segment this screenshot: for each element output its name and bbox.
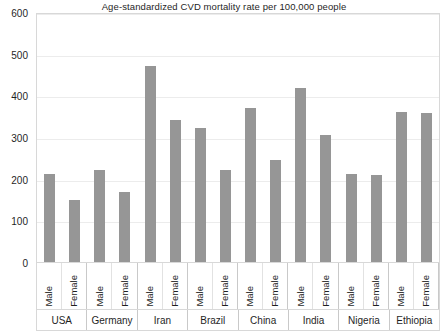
series-label-cell: Female (263, 263, 288, 309)
series-label: Male (245, 286, 255, 307)
bar-cell (112, 14, 137, 262)
bar[interactable] (119, 192, 130, 262)
series-label: Female (270, 275, 280, 307)
plot-area (36, 13, 440, 263)
category-label: Nigeria (339, 310, 389, 330)
bar-cell (313, 14, 338, 262)
category-label: Germany (87, 310, 137, 330)
series-label-cell: Male (87, 263, 112, 309)
bar[interactable] (69, 200, 80, 263)
bar[interactable] (44, 174, 55, 262)
series-label: Female (321, 275, 331, 307)
series-label-cell: Male (188, 263, 213, 309)
bar[interactable] (270, 160, 281, 262)
bar[interactable] (170, 120, 181, 262)
bar-cell (263, 14, 288, 262)
bar-cell (87, 14, 112, 262)
bar[interactable] (346, 174, 357, 262)
series-label-cell: Female (414, 263, 439, 309)
series-label-cell: Female (112, 263, 137, 309)
y-axis-tick-label: 100 (11, 216, 28, 227)
y-axis-tick-label: 300 (11, 133, 28, 144)
y-axis-tick-label: 200 (11, 174, 28, 185)
bar-cell (62, 14, 87, 262)
bar-cell (188, 14, 213, 262)
bar[interactable] (245, 108, 256, 262)
bar-cell (389, 14, 414, 262)
series-label: Male (145, 286, 155, 307)
series-label: Male (95, 286, 105, 307)
series-label: Male (44, 286, 54, 307)
series-label: Female (69, 275, 79, 307)
chart-title: Age-standardized CVD mortality rate per … (0, 1, 448, 12)
series-label-cell: Male (389, 263, 414, 309)
category-label-band: USAGermanyIranBrazilChinaIndiaNigeriaEth… (36, 310, 440, 331)
bar-cell (288, 14, 313, 262)
category-label: Ethiopia (390, 310, 439, 330)
category-label: Brazil (188, 310, 238, 330)
bar[interactable] (295, 88, 306, 262)
bar-cell (238, 14, 263, 262)
y-axis-tick-label: 400 (11, 91, 28, 102)
series-label: Male (396, 286, 406, 307)
series-label-cell: Female (163, 263, 188, 309)
bar-chart: Age-standardized CVD mortality rate per … (0, 0, 448, 332)
category-label: India (289, 310, 339, 330)
y-axis-tick-label: 600 (11, 8, 28, 19)
series-label-cell: Female (62, 263, 87, 309)
bar-cell (364, 14, 389, 262)
category-label: China (239, 310, 289, 330)
y-axis: 6005004003002001000 (0, 13, 33, 265)
bar[interactable] (371, 175, 382, 262)
series-label-cell: Male (339, 263, 364, 309)
series-label-cell: Male (238, 263, 263, 309)
series-label: Female (170, 275, 180, 307)
y-axis-tick-label: 500 (11, 49, 28, 60)
bar-cell (138, 14, 163, 262)
y-axis-tick-label: 0 (22, 258, 28, 269)
category-label: Iran (138, 310, 188, 330)
series-label-band: MaleFemaleMaleFemaleMaleFemaleMaleFemale… (36, 263, 440, 310)
bar-cell (163, 14, 188, 262)
series-label: Male (346, 286, 356, 307)
series-label-cell: Male (138, 263, 163, 309)
bar[interactable] (195, 128, 206, 262)
series-label-cell: Male (37, 263, 62, 309)
series-label: Female (371, 275, 381, 307)
bar-cell (213, 14, 238, 262)
bars-layer (37, 14, 439, 262)
category-label: USA (37, 310, 87, 330)
series-label: Male (195, 286, 205, 307)
series-label-cell: Female (313, 263, 338, 309)
series-label: Female (120, 275, 130, 307)
bar[interactable] (94, 170, 105, 262)
bar[interactable] (220, 170, 231, 262)
bar[interactable] (320, 135, 331, 262)
bar[interactable] (145, 66, 156, 262)
bar-cell (414, 14, 439, 262)
series-label: Female (220, 275, 230, 307)
bar-cell (339, 14, 364, 262)
bar[interactable] (421, 113, 432, 262)
series-label-cell: Male (288, 263, 313, 309)
bar-cell (37, 14, 62, 262)
series-label-cell: Female (213, 263, 238, 309)
series-label: Male (296, 286, 306, 307)
series-label-cell: Female (364, 263, 389, 309)
series-label: Female (421, 275, 431, 307)
bar[interactable] (396, 112, 407, 262)
